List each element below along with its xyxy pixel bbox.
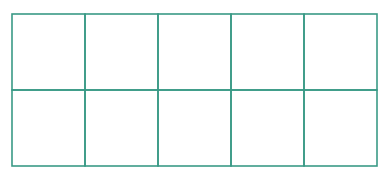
grid-cell (158, 14, 231, 90)
grid-cell (85, 90, 158, 166)
grid-cell (304, 14, 377, 90)
grid-cell (231, 14, 304, 90)
grid-cell (304, 90, 377, 166)
grid-cell (158, 90, 231, 166)
grid-cell (12, 90, 85, 166)
ten-frame-grid (11, 13, 378, 167)
grid-cell (85, 14, 158, 90)
grid-cell (12, 14, 85, 90)
grid-cell (231, 90, 304, 166)
